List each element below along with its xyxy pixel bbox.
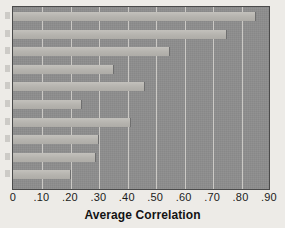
- x-tick-label: .10: [33, 191, 49, 203]
- bar-row: [13, 65, 269, 74]
- bar-row: [13, 153, 269, 162]
- bar: [13, 100, 82, 109]
- x-axis-title: Average Correlation: [0, 208, 285, 222]
- bar: [13, 82, 145, 91]
- plot-area: [12, 6, 270, 190]
- bar: [13, 30, 227, 39]
- bar-row: [13, 12, 269, 21]
- x-tick-label: .70: [204, 191, 220, 203]
- category-label-stub: [5, 135, 10, 142]
- x-tick-label: .20: [62, 191, 78, 203]
- bar: [13, 12, 256, 21]
- bar: [13, 47, 170, 56]
- bar-series: [13, 7, 269, 189]
- bar-row: [13, 118, 269, 127]
- category-label-stub: [5, 82, 10, 89]
- category-label-stub: [5, 118, 10, 125]
- x-tick-label: .30: [90, 191, 106, 203]
- bar-row: [13, 82, 269, 91]
- cropped-category-label-stubs: [0, 6, 11, 190]
- bar-row: [13, 47, 269, 56]
- category-label-stub: [5, 153, 10, 160]
- category-label-stub: [5, 30, 10, 37]
- chart-page: 0.10.20.30.40.50.60.70.80.90 Average Cor…: [0, 0, 285, 228]
- bar-row: [13, 135, 269, 144]
- x-axis-tick-labels: 0.10.20.30.40.50.60.70.80.90: [12, 191, 270, 207]
- category-label-stub: [5, 170, 10, 177]
- category-label-stub: [5, 47, 10, 54]
- bar-row: [13, 170, 269, 179]
- x-tick-label: .80: [233, 191, 249, 203]
- bar: [13, 118, 131, 127]
- bar: [13, 153, 96, 162]
- category-label-stub: [5, 100, 10, 107]
- category-label-stub: [5, 65, 10, 72]
- bar: [13, 65, 114, 74]
- category-label-stub: [5, 12, 10, 19]
- bar-row: [13, 30, 269, 39]
- x-tick-label: 0: [10, 191, 16, 203]
- bar: [13, 170, 71, 179]
- bar-row: [13, 100, 269, 109]
- bar: [13, 135, 99, 144]
- x-tick-label: .60: [176, 191, 192, 203]
- x-tick-label: .40: [119, 191, 135, 203]
- x-tick-label: .50: [147, 191, 163, 203]
- x-tick-label: .90: [261, 191, 277, 203]
